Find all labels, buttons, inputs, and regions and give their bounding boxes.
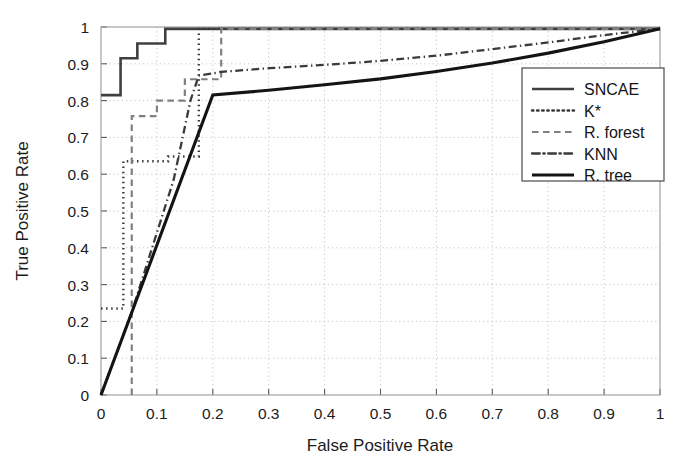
legend-label-r-tree: R. tree [584,167,632,184]
x-tick-label: 0.9 [593,405,615,422]
chart-legend: SNCAEK*R. forestKNNR. tree [522,68,664,184]
y-axis-tick-labels: 00.10.20.30.40.50.60.70.80.91 [67,19,89,404]
roc-chart-figure: 00.10.20.30.40.50.60.70.80.91 00.10.20.3… [0,0,695,467]
y-tick-label: 0 [80,387,89,404]
legend-label-knn: KNN [584,146,618,163]
y-tick-label: 0.7 [67,129,89,146]
x-tick-label: 0.3 [258,405,280,422]
x-tick-label: 0.8 [537,405,559,422]
y-axis-title: True Positive Rate [13,141,32,280]
legend-label-r-forest: R. forest [584,124,645,141]
x-axis-title: False Positive Rate [307,436,453,455]
y-tick-label: 0.1 [67,350,89,367]
x-tick-label: 0 [97,405,106,422]
x-tick-label: 0.5 [370,405,392,422]
x-tick-label: 0.7 [482,405,504,422]
y-tick-label: 0.3 [67,277,89,294]
x-tick-label: 1 [656,405,665,422]
y-tick-label: 0.8 [67,93,89,110]
x-axis-tick-labels: 00.10.20.30.40.50.60.70.80.91 [97,405,665,422]
legend-label-sncae: SNCAE [584,81,639,98]
roc-chart-svg: 00.10.20.30.40.50.60.70.80.91 00.10.20.3… [0,0,695,467]
x-tick-label: 0.6 [426,405,448,422]
y-tick-label: 0.6 [67,166,89,183]
y-tick-label: 0.9 [67,56,89,73]
y-tick-label: 0.5 [67,203,89,220]
x-tick-label: 0.4 [314,405,336,422]
legend-label-k: K* [584,103,601,120]
x-tick-label: 0.1 [146,405,168,422]
y-tick-label: 0.2 [67,313,89,330]
y-tick-label: 1 [80,19,89,36]
y-tick-label: 0.4 [67,240,89,257]
x-tick-label: 0.2 [202,405,224,422]
